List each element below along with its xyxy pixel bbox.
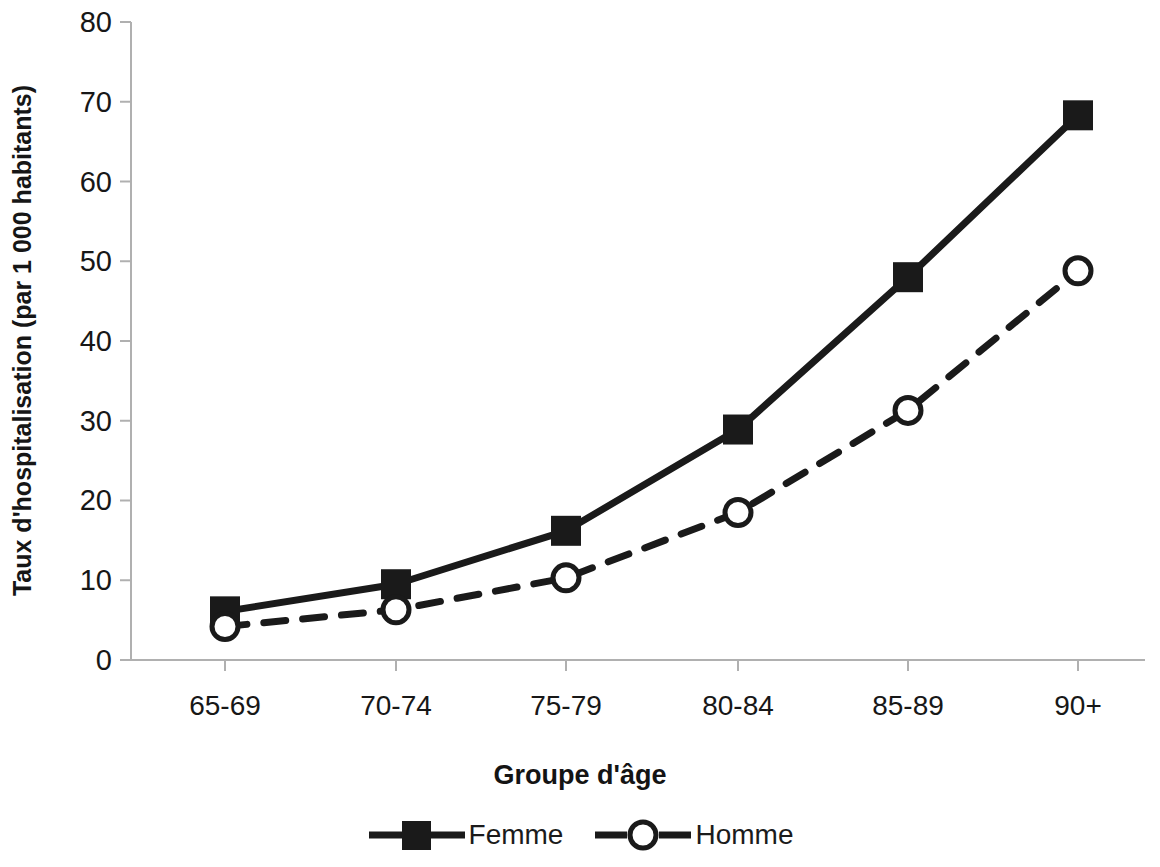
- legend-key-open-circle-icon: [593, 818, 693, 852]
- data-point-homme-85-89: [895, 397, 921, 423]
- data-point-homme-70-74: [383, 597, 409, 623]
- x-tick-65-69: 65-69: [189, 690, 261, 722]
- series-line-femme: [225, 115, 1078, 611]
- data-point-homme-65-69: [212, 614, 238, 640]
- data-point-homme-75-79: [553, 565, 579, 591]
- data-point-homme-80-84: [725, 499, 751, 525]
- x-tick-70-74: 70-74: [360, 690, 432, 722]
- x-tick-90-plus: 90+: [1054, 690, 1102, 722]
- legend-item-homme[interactable]: Homme: [593, 818, 793, 852]
- series-line-homme: [225, 271, 1078, 627]
- series-layer: [210, 100, 1093, 639]
- legend-key-filled-square-icon: [367, 818, 467, 852]
- legend-label-homme: Homme: [695, 819, 793, 851]
- data-point-femme-75-79: [551, 516, 581, 546]
- data-point-femme-85-89: [893, 262, 923, 292]
- data-point-femme-80-84: [723, 415, 753, 445]
- x-tick-80-84: 80-84: [702, 690, 774, 722]
- plot-area: [0, 0, 1160, 700]
- legend-label-femme: Femme: [469, 819, 564, 851]
- x-tick-75-79: 75-79: [530, 690, 602, 722]
- x-axis-title: Groupe d'âge: [0, 760, 1160, 791]
- data-point-homme-90+: [1065, 258, 1091, 284]
- legend-item-femme[interactable]: Femme: [367, 818, 564, 852]
- x-tick-85-89: 85-89: [872, 690, 944, 722]
- data-point-femme-90+: [1063, 100, 1093, 130]
- chart-legend: Femme Homme: [0, 818, 1160, 852]
- chart-container: Taux d'hospitalisation (par 1 000 habita…: [0, 0, 1160, 867]
